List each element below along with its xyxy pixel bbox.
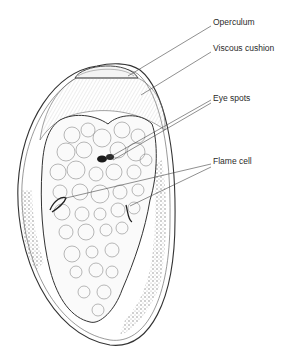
label-operculum: Operculum bbox=[213, 18, 255, 27]
label-eye-spots: Eye spots bbox=[213, 94, 250, 103]
label-flame-cell: Flame cell bbox=[213, 157, 252, 166]
label-viscous-cushion: Viscous cushion bbox=[213, 44, 274, 53]
